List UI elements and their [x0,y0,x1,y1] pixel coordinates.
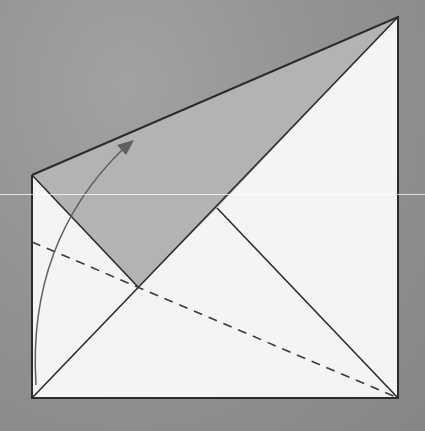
origami-diagram [0,0,425,431]
diagram-canvas [0,0,425,431]
scan-artifact-line [0,194,425,195]
